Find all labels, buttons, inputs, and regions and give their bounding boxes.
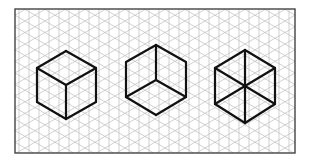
isometric-diagram: Isometric cube views on isometric grid <box>0 0 310 163</box>
diagram-canvas: Isometric cube views on isometric grid <box>0 0 310 163</box>
